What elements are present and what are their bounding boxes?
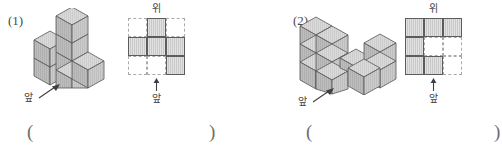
topview-diagram-1: 위 앞: [128, 4, 185, 104]
grid-cell: [147, 56, 166, 75]
cube-solid-diagram-2: [296, 10, 416, 95]
topview-front-label: 앞: [128, 94, 185, 104]
topview-top-label: 위: [128, 4, 185, 14]
problem-number: (1): [8, 13, 23, 29]
topview-front-label: 앞: [405, 94, 462, 104]
cube-solid-svg: [28, 8, 123, 93]
arrow-up-icon: [152, 78, 161, 92]
grid-cell: [443, 56, 462, 75]
answer-close-paren: ): [494, 121, 500, 143]
grid-cell: [166, 56, 185, 75]
grid-cell: [443, 18, 462, 37]
answer-row: ( ): [0, 121, 251, 147]
grid-cell: [147, 37, 166, 56]
grid-cell: [128, 37, 147, 56]
grid-cell: [128, 56, 147, 75]
grid-cell: [128, 18, 147, 37]
grid-cell: [166, 18, 185, 37]
arrow-up-icon: [429, 78, 438, 92]
answer-open-paren: (: [27, 121, 33, 143]
answer-row: ( ): [251, 121, 502, 147]
grid-cell: [443, 37, 462, 56]
grid-cell: [405, 37, 424, 56]
problem-1: (1): [0, 0, 251, 157]
cube-solid-diagram-1: [28, 8, 123, 93]
solid-front-label: 앞: [24, 93, 33, 103]
topview-grid: [128, 18, 185, 75]
answer-open-paren: (: [306, 121, 312, 143]
topview-grid: [405, 18, 462, 75]
answer-close-paren: ): [209, 121, 215, 143]
grid-cell: [405, 18, 424, 37]
topview-top-label: 위: [405, 4, 462, 14]
arrow-up-right-icon: [312, 88, 336, 104]
grid-cell: [147, 18, 166, 37]
grid-cell: [166, 37, 185, 56]
grid-cell: [424, 18, 443, 37]
arrow-up-right-icon: [38, 84, 62, 100]
grid-cell: [405, 56, 424, 75]
grid-cell: [424, 37, 443, 56]
topview-diagram-2: 위 앞: [405, 4, 462, 104]
cube-solid-svg: [296, 10, 416, 95]
solid-front-label: 앞: [298, 97, 307, 107]
grid-cell: [424, 56, 443, 75]
problem-2: (2): [251, 0, 502, 157]
